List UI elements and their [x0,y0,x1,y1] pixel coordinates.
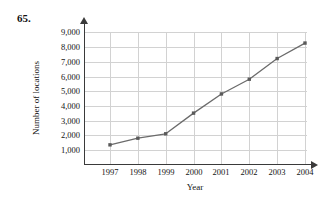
data-point-2000 [192,111,195,114]
figure: 65. 1,000 2,000 3,000 4,000 5,000 6,000 [0,0,332,204]
series-markers [108,41,306,146]
data-point-1999 [164,132,167,135]
data-point-2003 [275,57,278,60]
data-point-1998 [136,137,139,140]
data-point-2002 [248,78,251,81]
line-chart: 1,000 2,000 3,000 4,000 5,000 6,000 7,00… [0,0,332,204]
data-series [0,0,332,204]
data-point-2001 [220,92,223,95]
data-point-2004 [303,41,306,44]
data-point-1997 [108,143,111,146]
